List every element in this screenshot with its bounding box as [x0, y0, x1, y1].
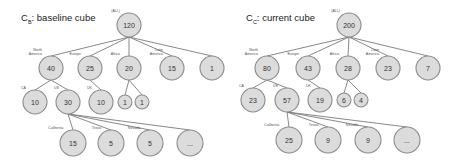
node-value: 10	[97, 99, 105, 106]
node-baseline-ot: 1	[200, 56, 224, 80]
edge-baseline-root-eu	[90, 37, 129, 56]
cube-tree-diagrams: 120(ALL)40NorthAmerica25Europe20Africa15…	[0, 0, 456, 165]
node-current-root: 200(ALL)	[331, 9, 361, 37]
node-baseline-af1: 1	[118, 95, 132, 109]
node-value: 1	[123, 99, 127, 106]
node-label: Europe	[287, 52, 299, 56]
node-baseline-af: 20Africa	[111, 52, 141, 80]
node-baseline-more: ...	[177, 130, 203, 156]
node-value: 4	[359, 97, 363, 104]
edge-baseline-us-cal	[68, 114, 73, 130]
edge-baseline-na-ca	[35, 80, 51, 90]
node-current-more: ...	[394, 127, 420, 153]
node-value: 5	[109, 140, 113, 147]
node-current-af: 28Africa	[330, 52, 360, 80]
node-label: CA	[239, 84, 245, 88]
node-value: 57	[283, 97, 291, 104]
node-value: 1	[210, 65, 214, 72]
node-label: (ALL)	[331, 9, 340, 13]
node-baseline-la: 15LatinAmerica	[150, 48, 184, 80]
edge-current-root-af	[348, 37, 349, 56]
node-label: Europe	[69, 52, 81, 56]
node-baseline-eu: 25Europe	[69, 52, 102, 80]
node-baseline-root: 120(ALL)	[111, 9, 141, 37]
node-value: 7	[426, 65, 430, 72]
node-baseline-ca: 10CA	[21, 86, 47, 114]
node-label: America	[366, 52, 379, 56]
tree-nodes: 120(ALL)40NorthAmerica25Europe20Africa15…	[21, 9, 440, 156]
edge-current-af-af2	[348, 80, 361, 93]
node-label: Nevada	[128, 126, 140, 130]
node-value: ...	[404, 137, 410, 144]
edge-current-root-eu	[308, 37, 349, 56]
node-value: 15	[168, 65, 176, 72]
edge-baseline-root-ot	[129, 37, 212, 56]
node-value: 25	[86, 65, 94, 72]
node-value: 23	[384, 65, 392, 72]
node-current-tx: 9Texas	[309, 123, 341, 153]
node-value: 200	[343, 22, 355, 29]
node-baseline-nv: 5Nevada	[128, 126, 163, 156]
node-value: 9	[326, 137, 330, 144]
node-current-us: 57US	[273, 84, 299, 112]
edge-current-na-ca	[253, 80, 267, 88]
node-label: Texas	[309, 123, 319, 127]
node-label: America	[150, 52, 163, 56]
node-baseline-tx: 5Texas	[92, 126, 124, 156]
node-current-af2: 4	[354, 93, 368, 107]
node-value: 25	[285, 137, 293, 144]
node-label: Africa	[111, 52, 120, 56]
node-label: Nevada	[346, 123, 358, 127]
edge-current-us-cal	[287, 112, 289, 127]
node-value: 120	[123, 22, 135, 29]
edge-current-root-ot	[349, 37, 428, 56]
node-current-ca: 23CA	[239, 84, 265, 112]
node-baseline-na: 40NorthAmerica	[29, 48, 63, 80]
node-label: UK	[87, 86, 93, 90]
node-baseline-af2: 1	[135, 95, 149, 109]
node-value: 9	[366, 137, 370, 144]
node-value: 15	[69, 140, 77, 147]
node-current-cal: 25California	[264, 123, 302, 153]
edge-baseline-af-af1	[125, 80, 129, 95]
node-value: 23	[249, 97, 257, 104]
node-value: 1	[140, 99, 144, 106]
node-label: America	[245, 52, 258, 56]
node-current-eu: 43Europe	[287, 52, 320, 80]
node-label: CA	[21, 86, 27, 90]
node-value: 19	[316, 97, 324, 104]
node-label: UK	[306, 84, 312, 88]
node-value: 80	[263, 65, 271, 72]
node-label: Texas	[92, 126, 102, 130]
node-current-af1: 6	[337, 93, 351, 107]
node-value: 30	[64, 99, 72, 106]
node-value: 20	[125, 65, 133, 72]
edge-current-af-af1	[344, 80, 348, 93]
node-label: California	[48, 126, 63, 130]
node-value: 28	[344, 65, 352, 72]
node-label: America	[29, 52, 42, 56]
tree-edges	[35, 37, 428, 130]
node-baseline-us: 30US	[54, 86, 80, 114]
node-current-nv: 9Nevada	[346, 123, 381, 153]
node-label: US	[273, 84, 279, 88]
node-value: 6	[342, 97, 346, 104]
node-current-uk: 19UK	[306, 84, 332, 112]
node-value: ...	[187, 140, 193, 147]
node-label: US	[54, 86, 60, 90]
node-label: (ALL)	[111, 9, 120, 13]
node-baseline-uk: 10UK	[87, 86, 113, 114]
node-value: 5	[148, 140, 152, 147]
node-current-la: 23LatinAmerica	[366, 48, 400, 80]
node-value: 10	[31, 99, 39, 106]
edge-baseline-af-af2	[129, 80, 142, 95]
node-baseline-cal: 15California	[48, 126, 86, 156]
node-current-na: 80NorthAmerica	[245, 48, 279, 80]
node-value: 40	[47, 65, 55, 72]
node-current-ot: 7	[416, 56, 440, 80]
node-label: Africa	[330, 52, 339, 56]
node-value: 43	[304, 65, 312, 72]
node-label: California	[264, 123, 279, 127]
